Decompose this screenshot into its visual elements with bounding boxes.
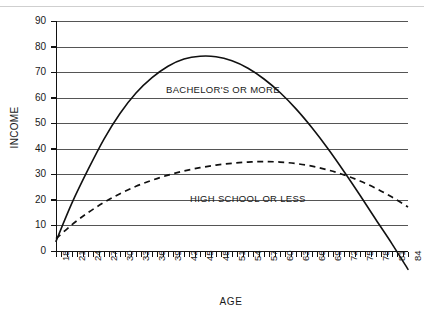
x-tick-label-78: 78 xyxy=(380,250,391,261)
chart-plot-svg xyxy=(0,0,424,319)
x-tick-label-36: 36 xyxy=(156,250,167,261)
x-tick-label-63: 63 xyxy=(300,250,311,261)
x-tick-label-54: 54 xyxy=(252,250,263,261)
y-tick-label-20: 20 xyxy=(20,194,46,205)
x-tick-label-39: 39 xyxy=(172,250,183,261)
x-tick-label-33: 33 xyxy=(140,250,151,261)
x-tick-label-48: 48 xyxy=(220,250,231,261)
x-tick-label-30: 30 xyxy=(124,250,135,261)
x-tick-label-27: 27 xyxy=(108,250,119,261)
x-tick-label-75: 75 xyxy=(364,250,375,261)
x-tick-label-51: 51 xyxy=(236,250,247,261)
x-tick-label-84: 84 xyxy=(412,250,423,261)
y-tick-label-30: 30 xyxy=(20,168,46,179)
x-tick-label-69: 69 xyxy=(332,250,343,261)
x-tick-label-21: 21 xyxy=(76,250,87,261)
x-axis-title: AGE xyxy=(54,296,408,307)
x-tick-label-45: 45 xyxy=(204,250,215,261)
series-label-bachelors: BACHELOR'S OR MORE xyxy=(166,84,280,95)
y-tick-label-40: 40 xyxy=(20,143,46,154)
y-tick-label-90: 90 xyxy=(20,15,46,26)
y-tick-label-10: 10 xyxy=(20,219,46,230)
y-tick-label-60: 60 xyxy=(20,92,46,103)
y-tick-label-50: 50 xyxy=(20,117,46,128)
x-tick-label-42: 42 xyxy=(188,250,199,261)
x-tick-label-18: 18 xyxy=(60,250,71,261)
y-tick-label-80: 80 xyxy=(20,41,46,52)
x-tick-label-66: 66 xyxy=(316,250,327,261)
x-tick-label-72: 72 xyxy=(348,250,359,261)
series-label-high-school: HIGH SCHOOL OR LESS xyxy=(190,193,306,204)
y-tick-label-0: 0 xyxy=(20,245,46,256)
income-by-age-chart: INCOME AGE 9080706050403020100 182124273… xyxy=(0,0,424,319)
x-tick-label-60: 60 xyxy=(284,250,295,261)
y-tick-marks xyxy=(51,22,56,252)
x-tick-label-57: 57 xyxy=(268,250,279,261)
y-tick-label-70: 70 xyxy=(20,66,46,77)
y-axis-title: INCOME xyxy=(9,98,20,158)
x-tick-label-24: 24 xyxy=(92,250,103,261)
x-tick-label-81: 81 xyxy=(396,250,407,261)
